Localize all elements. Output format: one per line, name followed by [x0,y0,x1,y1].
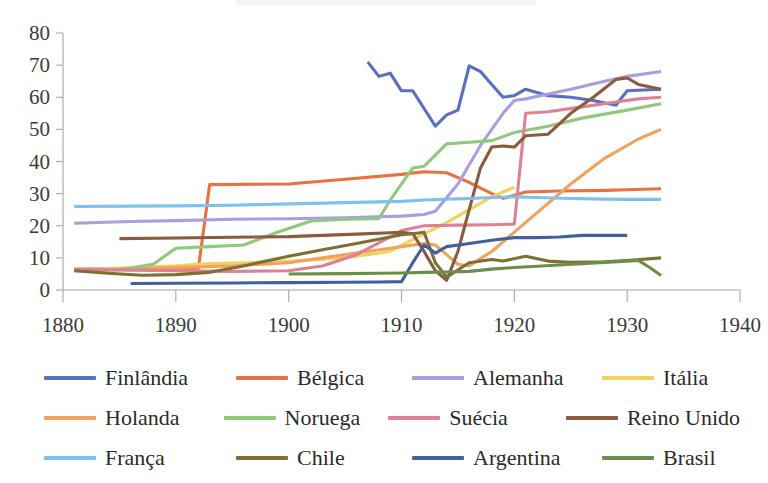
series-line-noruega [74,104,661,271]
y-tick-label: 0 [40,278,51,302]
legend-item-argentina[interactable]: Argentina [412,438,602,478]
legend-item-brasil[interactable]: Brasil [602,438,716,478]
legend-label: Holanda [105,407,180,429]
y-tick-label: 80 [29,21,50,45]
legend-color-swatch [412,376,464,380]
legend-color-swatch [44,456,96,460]
legend-color-swatch [602,456,654,460]
y-tick-label: 60 [29,85,50,109]
x-tick-label: 1890 [155,313,197,337]
line-chart-svg: 01020304050607080 1880189019001910192019… [0,0,768,348]
legend-row: FrançaChileArgentinaBrasil [44,438,740,478]
legend-color-swatch [44,376,96,380]
legend-color-swatch [388,416,440,420]
legend-label: França [105,447,165,469]
x-tick-label: 1940 [719,313,761,337]
legend-item-itália[interactable]: Itália [602,358,708,398]
x-tick-label: 1920 [493,313,535,337]
legend-color-swatch [236,376,288,380]
legend-item-bélgica[interactable]: Bélgica [236,358,412,398]
legend-label: Alemanha [473,367,563,389]
legend-color-swatch [602,376,654,380]
series-line-alemanha [74,72,661,224]
legend-row: HolandaNoruegaSuéciaReino Unido [44,398,740,438]
legend-item-holanda[interactable]: Holanda [44,398,224,438]
legend-color-swatch [44,416,96,420]
chart-root: 01020304050607080 1880189019001910192019… [0,0,768,483]
y-tick-label: 30 [29,182,50,206]
legend-item-chile[interactable]: Chile [236,438,412,478]
legend-item-noruega[interactable]: Noruega [224,398,389,438]
series-line-suécia [74,97,661,271]
legend-label: Finlândia [105,367,188,389]
y-tick-label: 20 [29,214,50,238]
legend-item-alemanha[interactable]: Alemanha [412,358,602,398]
legend-label: Brasil [663,447,716,469]
legend-label: Argentina [473,447,561,469]
legend-label: Chile [297,447,345,469]
y-tick-label: 40 [29,150,50,174]
y-tick-label: 50 [29,117,50,141]
legend-item-reino-unido[interactable]: Reino Unido [566,398,740,438]
series-line-frança [74,197,661,207]
series-line-finlândia [368,62,661,126]
legend-label: Noruega [285,407,361,429]
legend-color-swatch [566,416,618,420]
legend-label: Bélgica [297,367,364,389]
legend-color-swatch [412,456,464,460]
plot-area: 01020304050607080 1880189019001910192019… [0,0,768,348]
x-tick-label: 1930 [606,313,648,337]
x-tick-label: 1900 [268,313,310,337]
chart-legend: FinlândiaBélgicaAlemanhaItáliaHolandaNor… [0,352,768,483]
x-tick-label: 1910 [381,313,423,337]
legend-item-finlândia[interactable]: Finlândia [44,358,236,398]
legend-item-suécia[interactable]: Suécia [388,398,566,438]
legend-color-swatch [236,456,288,460]
x-axis: 1880189019001910192019301940 [42,290,761,337]
series-lines [74,62,661,284]
x-tick-label: 1880 [42,313,84,337]
legend-label: Suécia [449,407,508,429]
legend-row: FinlândiaBélgicaAlemanhaItália [44,358,740,398]
legend-label: Itália [663,367,708,389]
y-tick-label: 70 [29,53,50,77]
legend-label: Reino Unido [627,407,740,429]
legend-color-swatch [224,416,276,420]
y-tick-label: 10 [29,246,50,270]
y-axis: 01020304050607080 [29,21,63,302]
legend-item-frança[interactable]: França [44,438,236,478]
